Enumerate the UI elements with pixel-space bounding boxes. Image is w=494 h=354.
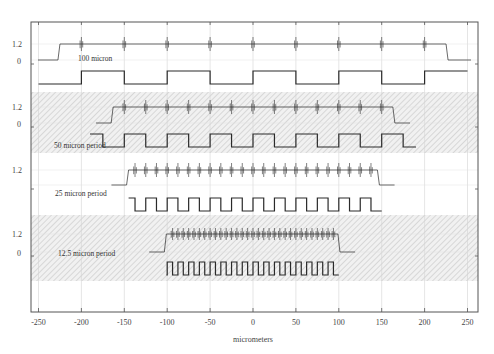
x-tick-label: 50 xyxy=(292,318,300,327)
x-axis-title: micrometers xyxy=(233,335,273,344)
y-tick-label-zero: 0 xyxy=(17,57,21,66)
x-tick-label: -250 xyxy=(31,318,46,327)
x-tick-label: 0 xyxy=(251,318,255,327)
series-label: 12.5 micron period xyxy=(58,249,116,258)
x-tick-label: -200 xyxy=(74,318,89,327)
square-wave xyxy=(39,71,468,84)
y-tick-label-zero: 0 xyxy=(17,120,21,129)
y-tick-label-high: 1.2 xyxy=(12,103,22,112)
series-label: 100 micron xyxy=(78,54,113,63)
x-tick-labels: -250-200-150-100-50050100150200250 xyxy=(31,318,473,327)
x-tick-label: 100 xyxy=(333,318,345,327)
square-wave xyxy=(129,198,382,211)
y-tick-label-high: 1.2 xyxy=(12,40,22,49)
shaded-band xyxy=(31,215,478,281)
y-tick-label-high: 1.2 xyxy=(12,166,22,175)
x-tick-label: -50 xyxy=(205,318,216,327)
x-tick-label: -100 xyxy=(160,318,175,327)
series-label: 25 micron period xyxy=(55,189,107,198)
y-tick-labels: 1.201.201.21.20 xyxy=(12,40,22,258)
x-tick-label: 200 xyxy=(419,318,431,327)
series-label: 50 micron period xyxy=(54,141,106,150)
x-tick-label: 150 xyxy=(376,318,388,327)
waveform-chart: -250-200-150-100-50050100150200250 1.201… xyxy=(0,0,494,354)
x-tick-label: -150 xyxy=(117,318,132,327)
y-tick-label-zero: 0 xyxy=(17,249,21,258)
x-tick-label: 250 xyxy=(462,318,474,327)
y-tick-label-high: 1.2 xyxy=(12,230,22,239)
